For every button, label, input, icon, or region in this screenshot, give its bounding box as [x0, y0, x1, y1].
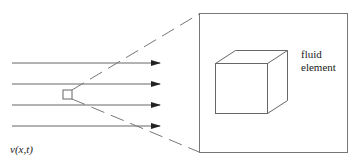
velocity-field-label: v(x,t) — [10, 143, 33, 155]
streamline-arrows — [12, 63, 160, 126]
fluid-element-diagram: v(x,t) fluid element — [0, 0, 357, 167]
small-element-square — [63, 90, 72, 99]
magnified-view-box — [200, 14, 348, 153]
cube-icon — [216, 51, 288, 114]
zoom-projection-lines — [72, 14, 199, 152]
diagram-graphics — [0, 0, 357, 167]
label-line-1: fluid — [301, 48, 336, 61]
label-line-2: element — [301, 61, 336, 74]
fluid-element-label: fluid element — [301, 48, 336, 74]
